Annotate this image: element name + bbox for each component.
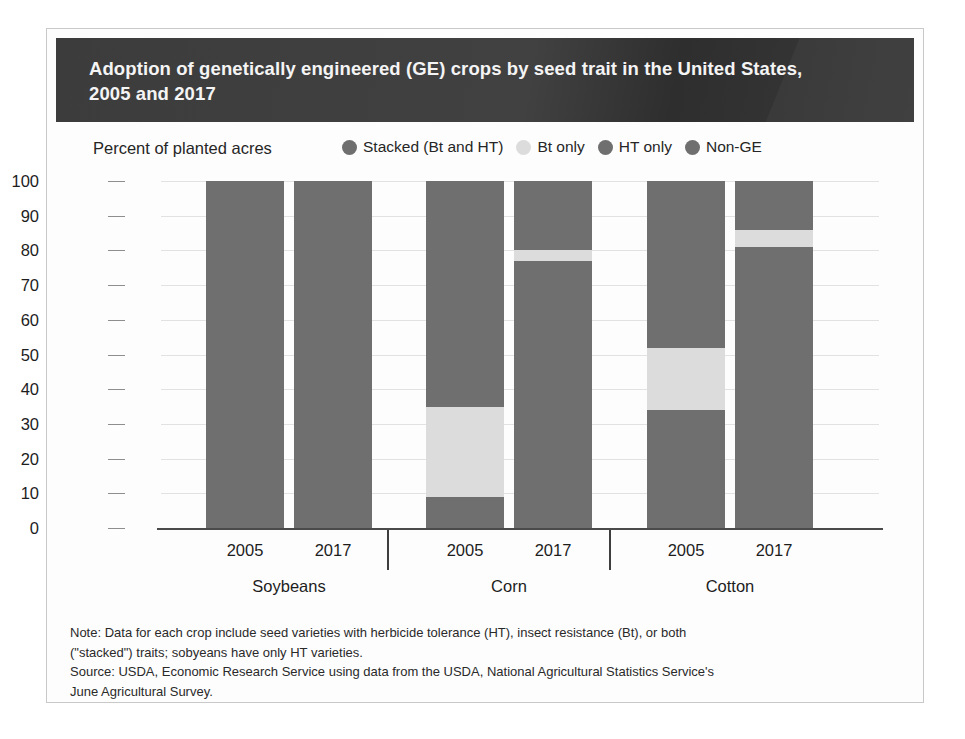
x-group-divider [387,530,389,570]
legend-swatch-icon [598,140,613,155]
bar-soybeans-2017 [294,181,372,528]
y-tick-dash [108,181,125,182]
legend-label: Bt only [537,138,584,156]
page-title: Adoption of genetically engineered (GE) … [89,56,879,106]
x-axis-line [157,528,883,530]
y-tick-dash [108,493,125,494]
bar-cotton-2005 [647,181,725,528]
y-tick-label: 40 [0,380,39,399]
y-tick-label: 20 [0,449,39,468]
legend-item-1: Bt only [516,138,584,156]
x-group-label: Soybeans [252,577,325,596]
legend-item-0: Stacked (Bt and HT) [342,138,503,156]
footnote: Note: Data for each crop include seed va… [70,623,900,701]
footnote-source: Source: USDA, Economic Research Service … [70,662,900,701]
x-tick-label-year: 2017 [315,541,352,560]
footnote-note: Note: Data for each crop include seed va… [70,623,900,662]
y-tick-dash [108,424,125,425]
title-banner: Adoption of genetically engineered (GE) … [56,38,914,122]
y-tick-label: 50 [0,345,39,364]
x-tick-label-year: 2017 [535,541,572,560]
y-tick-label: 70 [0,276,39,295]
y-tick-dash [108,528,125,529]
y-tick-dash [108,320,125,321]
y-tick-label: 100 [0,172,39,191]
y-tick-label: 30 [0,414,39,433]
bar-segment [647,348,725,410]
bar-segment [294,181,372,528]
bar-segment [647,181,725,348]
y-tick-dash [108,459,125,460]
bar-segment [426,181,504,407]
figure-card: Adoption of genetically engineered (GE) … [46,28,924,703]
y-tick-dash [108,216,125,217]
bar-cotton-2017 [735,181,813,528]
y-tick-label: 0 [0,519,39,538]
y-tick-dash [108,250,125,251]
chart-legend: Stacked (Bt and HT)Bt onlyHT onlyNon-GE [342,138,762,156]
axis-unit-label: Percent of planted acres [93,139,272,158]
y-tick-label: 10 [0,484,39,503]
bar-segment [426,407,504,497]
bar-segment [735,181,813,230]
x-group-label: Cotton [706,577,755,596]
legend-row: Percent of planted acres Stacked (Bt and… [47,133,925,167]
legend-swatch-icon [516,140,531,155]
bar-corn-2017 [514,181,592,528]
bar-segment [206,181,284,528]
legend-item-2: HT only [598,138,672,156]
bar-segment [735,230,813,247]
x-tick-label-year: 2005 [447,541,484,560]
bar-segment [514,261,592,528]
legend-label: Non-GE [706,138,762,156]
y-tick-dash [108,389,125,390]
x-tick-label-year: 2017 [756,541,793,560]
bar-soybeans-2005 [206,181,284,528]
bar-segment [735,247,813,528]
x-tick-label-year: 2005 [227,541,264,560]
legend-swatch-icon [342,140,357,155]
y-tick-label: 80 [0,241,39,260]
bar-segment [514,181,592,250]
bar-segment [426,497,504,528]
y-tick-label: 90 [0,206,39,225]
y-tick-dash [108,355,125,356]
x-group-label: Corn [491,577,527,596]
legend-label: Stacked (Bt and HT) [363,138,503,156]
legend-label: HT only [619,138,672,156]
plot-area [161,181,879,528]
bar-corn-2005 [426,181,504,528]
x-tick-label-year: 2005 [668,541,705,560]
legend-item-3: Non-GE [685,138,762,156]
y-tick-dash [108,285,125,286]
x-group-divider [609,530,611,570]
y-axis: 0102030405060708090100 [0,181,39,528]
bar-segment [647,410,725,528]
legend-swatch-icon [685,140,700,155]
y-tick-label: 60 [0,310,39,329]
bar-segment [514,250,592,260]
